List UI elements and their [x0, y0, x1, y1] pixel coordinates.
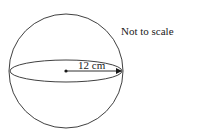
sphere-diagram: 12 cm Not to scale [0, 0, 201, 135]
scale-note: Not to scale [121, 25, 174, 37]
radius-label: 12 cm [78, 59, 106, 71]
